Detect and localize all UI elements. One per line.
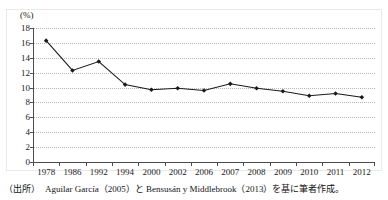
- x-tick-1: [59, 162, 60, 166]
- x-axis-label-2008: 2008: [248, 167, 266, 178]
- chart-figure: (%) 181614121086420 19781986199219942000…: [0, 0, 388, 200]
- data-point-2008: [254, 86, 259, 91]
- x-axis-label-2006: 2006: [195, 167, 213, 178]
- x-axis-label-1986: 1986: [63, 167, 81, 178]
- data-point-2006: [202, 88, 207, 93]
- cropped-title-remnant: [0, 0, 388, 7]
- x-tick-6: [191, 162, 192, 166]
- x-axis-label-2000: 2000: [142, 167, 160, 178]
- data-point-2012: [360, 95, 365, 100]
- data-point-2011: [333, 91, 338, 96]
- y-axis-unit-label: (%): [20, 10, 34, 20]
- x-tick-4: [138, 162, 139, 166]
- y-axis-label-18: 18: [6, 24, 30, 33]
- y-axis-label-0: 0: [6, 158, 30, 167]
- y-axis-label-12: 12: [6, 68, 30, 77]
- x-axis-label-1994: 1994: [116, 167, 134, 178]
- x-tick-7: [217, 162, 218, 166]
- x-tick-13: [374, 162, 375, 166]
- x-axis-label-2007: 2007: [221, 167, 239, 178]
- x-tick-9: [270, 162, 271, 166]
- x-axis-label-2009: 2009: [274, 167, 292, 178]
- x-tick-5: [165, 162, 166, 166]
- x-axis-label-2012: 2012: [353, 167, 371, 178]
- data-point-2009: [281, 89, 286, 94]
- x-tick-10: [296, 162, 297, 166]
- x-tick-8: [243, 162, 244, 166]
- x-tick-3: [112, 162, 113, 166]
- x-axis-label-1978: 1978: [37, 167, 55, 178]
- x-tick-0: [33, 162, 34, 166]
- x-axis-label-1992: 1992: [90, 167, 108, 178]
- source-note: （出所） Aguilar García（2005）と Bensusán y Mi…: [4, 183, 344, 195]
- y-axis-label-10: 10: [6, 83, 30, 92]
- y-axis-label-6: 6: [6, 113, 30, 122]
- x-axis-label-2010: 2010: [300, 167, 318, 178]
- y-axis-label-14: 14: [6, 53, 30, 62]
- x-axis-tick-labels: 1978198619921994200020022006200720082009…: [33, 167, 375, 181]
- x-tick-2: [86, 162, 87, 166]
- data-series-line: [33, 28, 375, 162]
- data-point-2000: [149, 87, 154, 92]
- x-tick-12: [349, 162, 350, 166]
- y-axis-tick-labels: 181614121086420: [5, 28, 30, 162]
- x-axis-label-2002: 2002: [169, 167, 187, 178]
- y-axis-label-2: 2: [6, 143, 30, 152]
- y-axis-label-8: 8: [6, 98, 30, 107]
- data-point-2007: [228, 82, 233, 87]
- y-axis-label-16: 16: [6, 38, 30, 47]
- x-tick-11: [322, 162, 323, 166]
- data-point-2002: [175, 86, 180, 91]
- data-point-2010: [307, 93, 312, 98]
- y-axis-label-4: 4: [6, 128, 30, 137]
- x-axis-label-2011: 2011: [327, 167, 345, 178]
